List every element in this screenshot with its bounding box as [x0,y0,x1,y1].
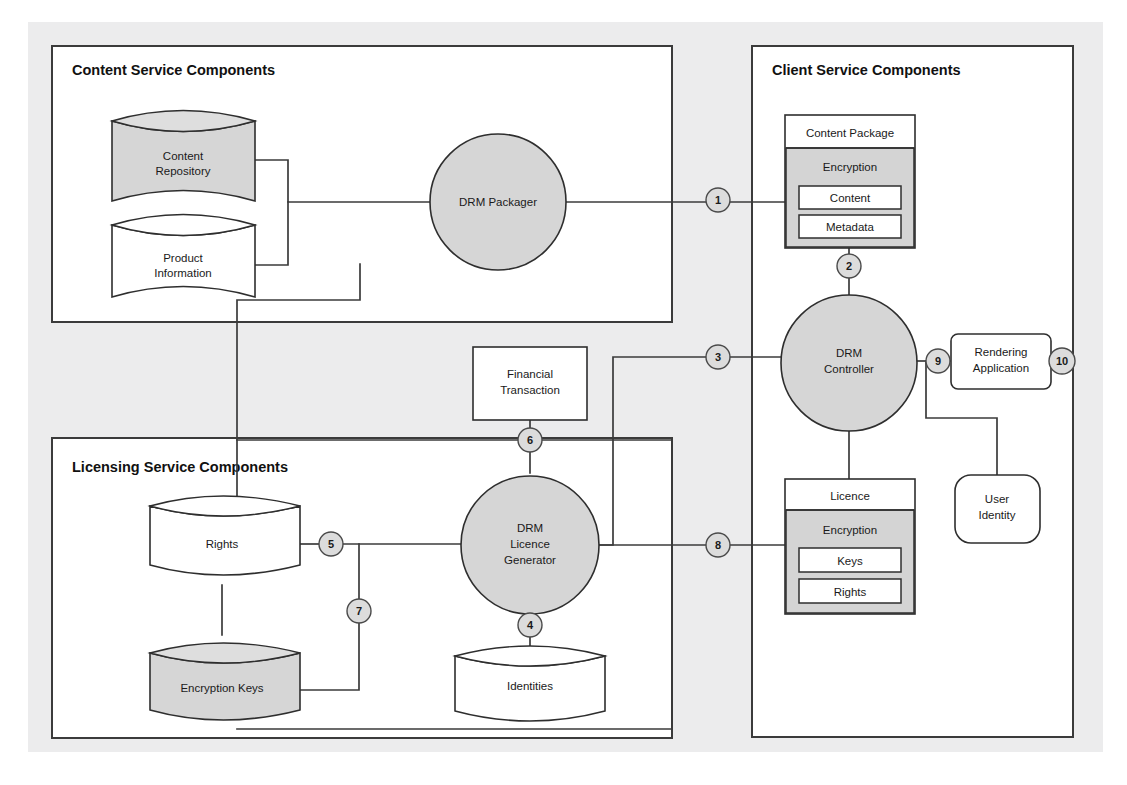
content-repository-label-2: Repository [156,165,211,177]
diagram-canvas: Content Service Components Client Servic… [0,0,1127,785]
content-repository-label-1: Content [163,150,204,162]
product-information-label-2: Information [154,267,212,279]
node-drm-licence-generator[interactable]: DRM Licence Generator [461,476,599,614]
content-package-item-metadata-label: Metadata [826,221,875,233]
drm-licence-generator-label-3: Generator [504,554,556,566]
badge-10[interactable]: 10 [1049,348,1075,374]
content-package-encryption-label: Encryption [823,161,877,173]
user-identity-label-2: Identity [978,509,1015,521]
badge-5-number: 5 [328,538,334,550]
financial-transaction-label-1: Financial [507,368,553,380]
node-drm-controller[interactable]: DRM Controller [781,295,917,431]
licence-item-rights-label: Rights [834,586,867,598]
badge-10-number: 10 [1056,355,1068,367]
node-financial-transaction[interactable]: Financial Transaction [473,347,587,420]
panel-client-service-title: Client Service Components [772,62,961,78]
badge-8[interactable]: 8 [706,533,730,557]
badge-3-number: 3 [715,351,721,363]
node-encryption-keys[interactable]: Encryption Keys [150,643,300,720]
panel-content-service-title: Content Service Components [72,62,275,78]
badge-3[interactable]: 3 [706,345,730,369]
licence-encryption-label: Encryption [823,524,877,536]
rendering-application-label-2: Application [973,362,1029,374]
badge-5[interactable]: 5 [319,532,343,556]
drm-packager-label: DRM Packager [459,196,537,208]
user-identity-label-1: User [985,493,1009,505]
rendering-application-label-1: Rendering [974,346,1027,358]
badge-6-number: 6 [527,434,533,446]
node-rights-store[interactable]: Rights [150,496,300,575]
drm-controller-label-2: Controller [824,363,874,375]
node-user-identity[interactable]: User Identity [955,475,1040,543]
node-drm-packager[interactable]: DRM Packager [430,134,566,270]
badge-7[interactable]: 7 [347,599,371,623]
node-licence[interactable]: Licence Encryption Keys Rights [785,479,915,614]
licence-header: Licence [830,490,870,502]
drm-controller-label-1: DRM [836,347,862,359]
product-information-label-1: Product [163,252,203,264]
financial-transaction-label-2: Transaction [500,384,560,396]
badge-6[interactable]: 6 [518,428,542,452]
drm-architecture-svg: Content Service Components Client Servic… [0,0,1127,785]
content-package-item-content-label: Content [830,192,871,204]
badge-2-number: 2 [846,260,852,272]
node-rendering-application[interactable]: Rendering Application [951,334,1051,389]
badge-2[interactable]: 2 [837,254,861,278]
rights-store-label: Rights [206,538,239,550]
badge-1-number: 1 [715,194,721,206]
drm-licence-generator-label-1: DRM [517,522,543,534]
node-product-information[interactable]: Product Information [112,215,255,298]
node-content-repository[interactable]: Content Repository [112,111,255,202]
content-package-header: Content Package [806,127,894,139]
identities-label: Identities [507,680,553,692]
panel-licensing-service-title: Licensing Service Components [72,459,288,475]
badge-4[interactable]: 4 [518,613,542,637]
badge-4-number: 4 [527,619,534,631]
badge-7-number: 7 [356,605,362,617]
drm-licence-generator-label-2: Licence [510,538,550,550]
node-identities[interactable]: Identities [455,646,605,721]
licence-item-keys-label: Keys [837,555,863,567]
badge-9[interactable]: 9 [926,349,950,373]
badge-8-number: 8 [715,539,721,551]
badge-9-number: 9 [935,355,941,367]
encryption-keys-label: Encryption Keys [180,682,263,694]
badge-1[interactable]: 1 [706,188,730,212]
node-content-package[interactable]: Content Package Encryption Content Metad… [785,115,915,248]
